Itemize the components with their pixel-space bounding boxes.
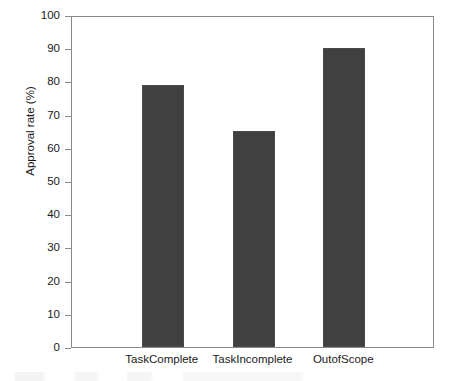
y-axis-tick-label: 100 (24, 10, 60, 22)
bar (323, 48, 365, 347)
x-axis-category-label: TaskIncomplete (213, 353, 293, 366)
bar (142, 85, 184, 347)
x-axis-category-label: OutofScope (313, 353, 374, 366)
y-axis-tick-mark (65, 348, 71, 349)
y-axis-tick-label: 40 (24, 209, 60, 221)
y-axis-tick-label: 0 (24, 342, 60, 354)
y-axis-tick-label: 20 (24, 276, 60, 288)
y-axis-tick-label: 10 (24, 309, 60, 321)
bar (233, 131, 275, 347)
y-axis-title: Approval rate (%) (24, 51, 36, 211)
figure-canvas: 0102030405060708090100 Approval rate (%)… (0, 0, 450, 381)
plot-area (71, 16, 434, 348)
y-axis-tick-label: 30 (24, 243, 60, 255)
scan-artifact (0, 372, 450, 381)
x-axis-category-label: TaskComplete (125, 353, 198, 366)
